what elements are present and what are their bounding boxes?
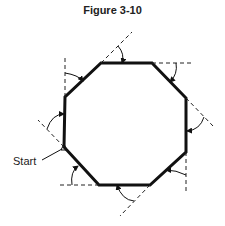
- octagon-diagram: [0, 0, 225, 226]
- start-label: Start: [13, 155, 36, 167]
- octagon-path: [64, 63, 186, 185]
- turn-arrows: [47, 46, 204, 201]
- start-leader-line: [42, 149, 62, 160]
